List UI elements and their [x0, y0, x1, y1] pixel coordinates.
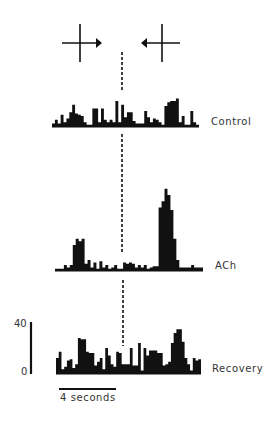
label-ach: ACh [215, 260, 237, 271]
label-control: Control [211, 116, 251, 127]
histogram-bars [56, 329, 201, 373]
histogram-control [52, 99, 199, 127]
stimulus-right-icon [141, 24, 180, 62]
stimulus-left-icon [62, 24, 102, 62]
histogram-figure [0, 0, 274, 423]
histogram-bars [55, 189, 203, 270]
y-min-label: 0 [21, 366, 27, 377]
histogram-ach [55, 189, 203, 271]
y-max-label: 40 [14, 318, 27, 329]
histogram-bars [52, 99, 199, 127]
label-recovery: Recovery [212, 363, 263, 374]
time-scale-label: 4 seconds [60, 392, 116, 403]
histogram-recovery [56, 329, 201, 373]
